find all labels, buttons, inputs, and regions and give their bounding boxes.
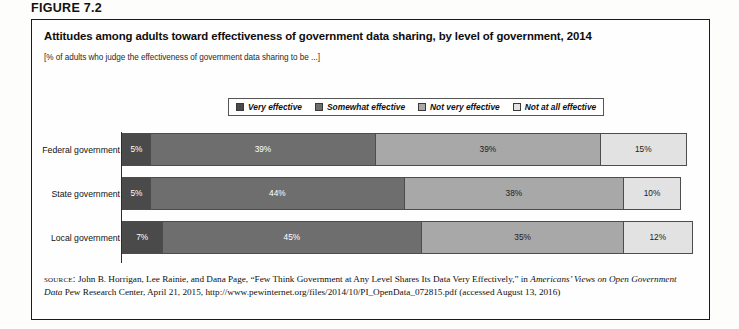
- bar-segment-value: 15%: [635, 145, 652, 153]
- bar-segment-value: 39%: [255, 145, 272, 153]
- category-label: Local government: [51, 233, 120, 243]
- figure-page: FIGURE 7.2 Attitudes among adults toward…: [0, 0, 739, 329]
- source-kicker: source:: [44, 273, 76, 284]
- legend-item-2[interactable]: Not very effective: [418, 102, 500, 112]
- bar-segment-value: 45%: [284, 233, 301, 241]
- bar-segment[interactable]: 12%: [623, 221, 692, 254]
- bar-segment[interactable]: 35%: [421, 221, 624, 254]
- legend-swatch-icon: [315, 103, 323, 111]
- bar-segment-value: 35%: [514, 233, 531, 241]
- figure-number: FIGURE 7.2: [31, 1, 102, 15]
- bar-segment-value: 7%: [136, 233, 148, 241]
- bar-segment[interactable]: 5%: [122, 133, 151, 166]
- category-label: Federal government: [42, 145, 120, 155]
- stacked-bar: 5%44%38%10%: [122, 177, 701, 210]
- chart-subtitle: [% of adults who judge the effectiveness…: [44, 53, 699, 62]
- figure-box: Attitudes among adults toward effectiven…: [31, 19, 710, 320]
- legend-item-label: Somewhat effective: [327, 102, 405, 112]
- legend-item-1[interactable]: Somewhat effective: [315, 102, 405, 112]
- bar-segment[interactable]: 45%: [162, 221, 423, 254]
- chart-title: Attitudes among adults toward effectiven…: [44, 30, 699, 42]
- bar-segment[interactable]: 7%: [122, 221, 163, 254]
- bar-segment[interactable]: 5%: [122, 177, 151, 210]
- stacked-bar: 5%39%39%15%: [122, 133, 701, 166]
- source-text-part-1: John B. Horrigan, Lee Rainie, and Dana P…: [76, 274, 531, 284]
- legend-item-3[interactable]: Not at all effective: [513, 102, 597, 112]
- source-note: source: John B. Horrigan, Lee Rainie, an…: [44, 272, 697, 299]
- chart-plot-area: Federal government5%39%39%15%State gover…: [32, 130, 711, 264]
- legend-item-0[interactable]: Very effective: [236, 102, 302, 112]
- bar-segment-value: 5%: [130, 189, 142, 197]
- legend-item-label: Not at all effective: [525, 102, 597, 112]
- bar-segment[interactable]: 15%: [600, 133, 687, 166]
- legend-item-label: Not very effective: [430, 102, 500, 112]
- bar-row: Local government7%45%35%12%: [32, 221, 711, 254]
- legend-swatch-icon: [418, 103, 426, 111]
- legend-item-label: Very effective: [248, 102, 302, 112]
- bar-segment[interactable]: 39%: [150, 133, 376, 166]
- bar-segment[interactable]: 39%: [375, 133, 601, 166]
- bar-segment[interactable]: 44%: [150, 177, 405, 210]
- bar-segment[interactable]: 10%: [623, 177, 681, 210]
- legend-swatch-icon: [513, 103, 521, 111]
- stacked-bar: 7%45%35%12%: [122, 221, 701, 254]
- source-text-part-2: Pew Research Center, April 21, 2015, htt…: [62, 287, 560, 297]
- bar-segment-value: 5%: [130, 145, 142, 153]
- bar-segment-value: 38%: [506, 189, 523, 197]
- chart-legend: Very effectiveSomewhat effectiveNot very…: [228, 98, 604, 116]
- bar-segment-value: 39%: [480, 145, 497, 153]
- legend-swatch-icon: [236, 103, 244, 111]
- bar-row: Federal government5%39%39%15%: [32, 133, 711, 166]
- bar-segment-value: 44%: [269, 189, 286, 197]
- bar-segment[interactable]: 38%: [404, 177, 624, 210]
- category-label: State government: [51, 189, 120, 199]
- bar-segment-value: 12%: [649, 233, 666, 241]
- bar-row: State government5%44%38%10%: [32, 177, 711, 210]
- bar-segment-value: 10%: [644, 189, 661, 197]
